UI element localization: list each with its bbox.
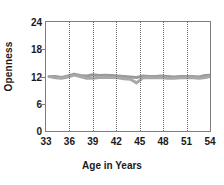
x-axis-title: Age in Years [0, 160, 224, 171]
y-tick-label-0: 0 [18, 126, 42, 137]
chart-figure: Openness 06121824 3336394245485154 Age i… [0, 0, 224, 185]
gridline-x-45 [140, 22, 141, 131]
y-axis-tick-labels: 06121824 [16, 0, 42, 185]
x-tick-label-54: 54 [204, 136, 215, 147]
y-tick-mark-18 [39, 49, 45, 50]
plot-area [45, 21, 211, 132]
gridline-x-36 [69, 22, 70, 131]
y-tick-mark-12 [39, 77, 45, 78]
y-tick-label-24: 24 [18, 17, 42, 28]
x-tick-label-42: 42 [111, 136, 122, 147]
x-tick-label-48: 48 [158, 136, 169, 147]
x-tick-label-51: 51 [181, 136, 192, 147]
x-tick-label-39: 39 [87, 136, 98, 147]
x-tick-label-33: 33 [40, 136, 51, 147]
gridline-x-48 [163, 22, 164, 131]
x-axis-tick-labels: 3336394245485154 [0, 136, 224, 152]
gridline-x-39 [93, 22, 94, 131]
y-axis-title-text: Openness [4, 41, 15, 91]
gridline-x-42 [116, 22, 117, 131]
y-tick-mark-6 [39, 104, 45, 105]
x-axis-title-text: Age in Years [82, 160, 142, 171]
gridline-x-51 [187, 22, 188, 131]
x-tick-label-36: 36 [64, 136, 75, 147]
data-lines-svg [46, 22, 210, 131]
x-tick-label-45: 45 [134, 136, 145, 147]
